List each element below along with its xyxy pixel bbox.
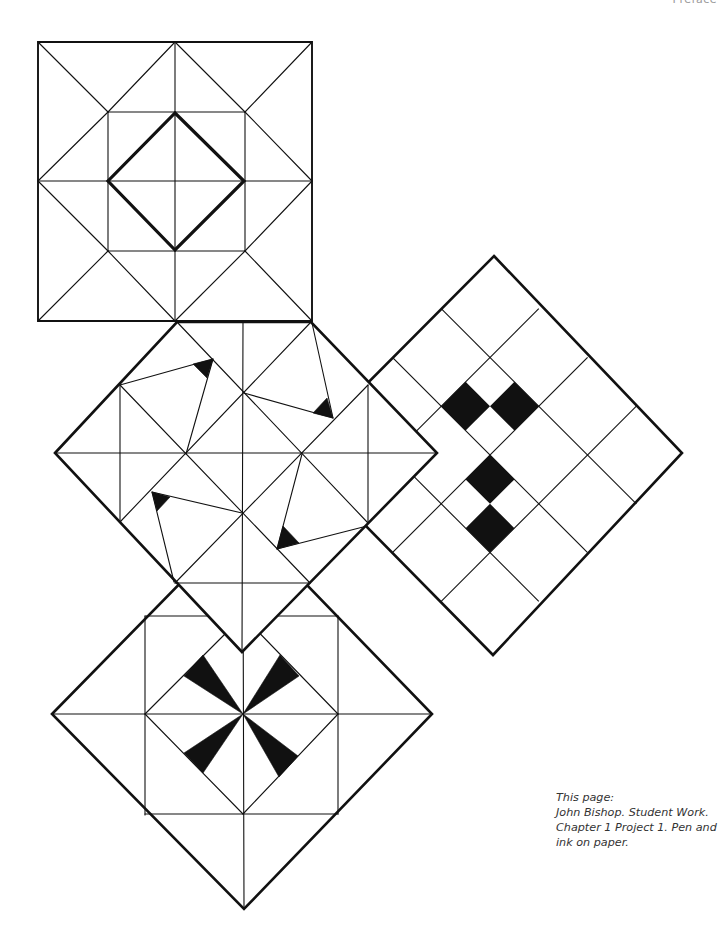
book-page: Preface This page: John Bishop. Student … (0, 0, 725, 946)
figure-caption: This page: John Bishop. Student Work. Ch… (556, 790, 725, 850)
caption-line-2: John Bishop. Student Work. (556, 805, 725, 820)
caption-line-4: ink on paper. (556, 835, 725, 850)
top-star-square (38, 42, 312, 321)
caption-line-3: Chapter 1 Project 1. Pen and (556, 820, 725, 835)
caption-line-1: This page: (556, 790, 725, 805)
